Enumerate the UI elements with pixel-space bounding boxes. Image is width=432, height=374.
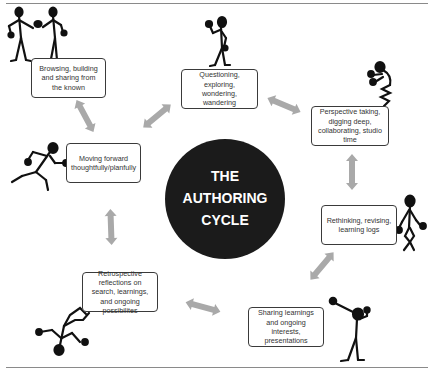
arrow-sharing-retrospective-icon [184, 297, 222, 318]
arrow-rethinking-sharing-icon [306, 248, 338, 283]
stage-browsing: Browsing, building and sharing from the … [31, 58, 106, 98]
stage-moving: Moving forward thoughtfully/planfully [66, 143, 141, 183]
stage-questioning: Questioning, exploring, wondering, wande… [181, 69, 258, 109]
authoring-cycle-center: THE AUTHORING CYCLE [165, 139, 285, 259]
stage-retrospective: Retrospective reflections on search, lea… [82, 272, 158, 312]
figure-walking-icon [206, 17, 230, 66]
stage-perspective: Perspective taking, digging deep, collab… [311, 106, 389, 146]
arrow-moving-questioning-icon [139, 100, 174, 132]
arrow-questioning-perspective-icon [265, 92, 303, 117]
stage-rethinking-label: Rethinking, revising, learning logs [326, 216, 392, 235]
center-title-line-3: CYCLE [183, 210, 268, 232]
arrow-retrospective-moving-icon [104, 209, 117, 245]
center-title-line-2: AUTHORING [183, 188, 268, 210]
figure-crouching-icon [368, 62, 390, 106]
stage-retrospective-label: Retrospective reflections on search, lea… [87, 269, 153, 316]
stage-browsing-label: Browsing, building and sharing from the … [36, 64, 101, 92]
two-figures-holding-hands-icon [9, 8, 67, 62]
stage-perspective-label: Perspective taking, digging deep, collab… [316, 107, 384, 144]
figure-arm-raised-icon [330, 298, 370, 361]
figure-standing-bent-knees-icon [396, 196, 426, 251]
figure-running-icon [12, 143, 69, 190]
arrow-browsing-moving-icon [71, 97, 98, 134]
stage-questioning-label: Questioning, exploring, wondering, wande… [186, 70, 253, 107]
arrow-perspective-rethinking-icon [346, 154, 358, 190]
stage-sharing: Sharing learnings and ongoing interests,… [248, 307, 324, 347]
center-title-line-1: THE [183, 166, 268, 188]
stage-sharing-label: Sharing learnings and ongoing interests,… [253, 308, 319, 345]
stage-moving-label: Moving forward thoughtfully/planfully [71, 154, 136, 173]
stage-rethinking: Rethinking, revising, learning logs [321, 205, 397, 245]
figure-upside-down-icon [36, 308, 89, 355]
